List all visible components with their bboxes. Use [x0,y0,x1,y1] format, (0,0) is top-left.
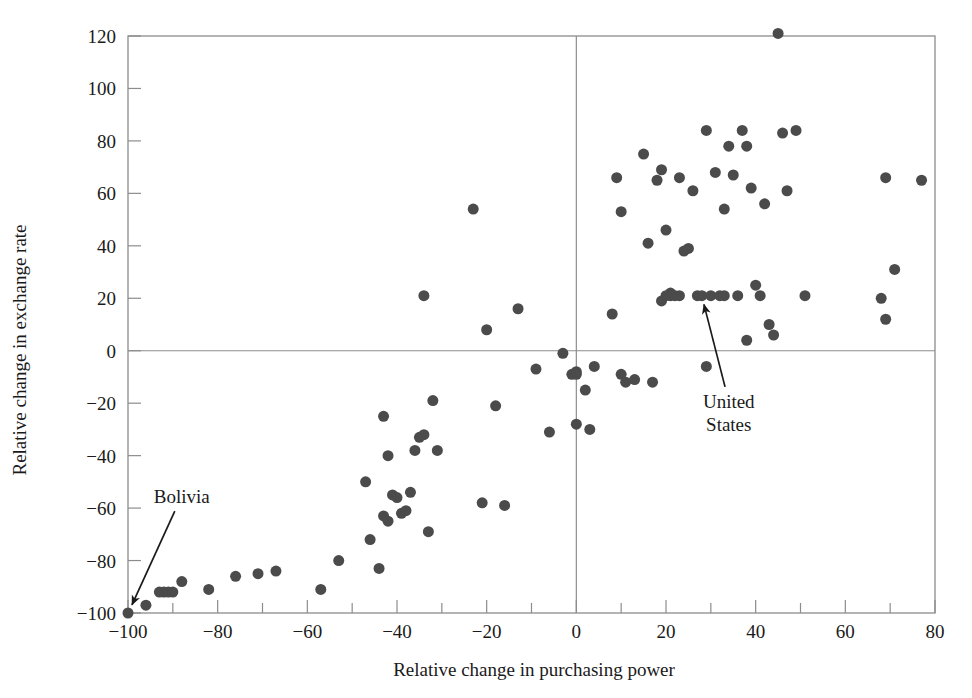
data-point [741,335,752,346]
data-point [616,206,627,217]
data-point [701,125,712,136]
x-tick-label: 0 [572,621,582,642]
data-point [755,290,766,301]
data-point [400,505,411,516]
data-point [418,290,429,301]
data-point [253,568,264,579]
data-point [571,419,582,430]
data-point [719,290,730,301]
data-point [791,125,802,136]
data-point [661,225,672,236]
data-point [773,28,784,39]
x-axis-title: Relative change in purchasing power [393,659,675,680]
y-tick-label: 0 [107,341,117,362]
data-point [674,172,685,183]
data-point [687,185,698,196]
data-point [427,395,438,406]
x-tick-label: −100 [108,621,147,642]
x-tick-label: 40 [746,621,765,642]
data-point [468,204,479,215]
annotation-label: Bolivia [154,486,211,507]
y-tick-label: 60 [97,183,116,204]
data-point [728,170,739,181]
data-point [880,172,891,183]
data-point [607,309,618,320]
y-tick-label: 20 [97,288,116,309]
data-point [333,555,344,566]
data-point [360,476,371,487]
data-point [764,319,775,330]
y-tick-label: −100 [77,603,116,624]
data-point [629,374,640,385]
data-point [176,576,187,587]
data-point [656,164,667,175]
y-tick-label: 120 [88,26,117,47]
y-tick-label: −80 [86,551,116,572]
y-tick-label: −60 [86,498,116,519]
chart-canvas: −100−80−60−40−20020406080 −100−80−60−40−… [0,0,972,698]
data-point [432,445,443,456]
data-point [737,125,748,136]
data-point [365,534,376,545]
chart-background [0,0,972,698]
data-point [481,324,492,335]
data-point [674,290,685,301]
data-point [392,492,403,503]
data-point [584,424,595,435]
data-point [490,400,501,411]
data-point [719,204,730,215]
data-point [315,584,326,595]
data-point [916,175,927,186]
data-point [643,238,654,249]
data-point [383,516,394,527]
data-point [383,450,394,461]
data-point [378,411,389,422]
data-point [710,167,721,178]
data-point [611,172,622,183]
annotation-label: States [706,414,751,435]
x-tick-label: 20 [657,621,676,642]
y-tick-label: 40 [97,236,116,257]
data-point [768,329,779,340]
data-point [530,364,541,375]
data-point [889,264,900,275]
data-point [499,500,510,511]
x-tick-label: −80 [203,621,233,642]
data-point [638,149,649,160]
data-point [750,280,761,291]
y-tick-label: 100 [88,78,117,99]
data-point [571,366,582,377]
y-tick-label: −40 [86,446,116,467]
y-tick-label: 80 [97,131,116,152]
y-axis-title: Relative change in exchange rate [9,224,30,475]
data-point [683,243,694,254]
data-point [405,487,416,498]
x-tick-label: 60 [836,621,855,642]
data-point [140,600,151,611]
data-point [647,377,658,388]
x-tick-label: −40 [382,621,412,642]
data-point [557,348,568,359]
data-point [732,290,743,301]
y-tick-label: −20 [86,393,116,414]
data-point [270,566,281,577]
data-point [799,290,810,301]
data-point [418,429,429,440]
data-point [513,303,524,314]
data-point [759,198,770,209]
x-tick-label: −20 [472,621,502,642]
data-point [544,427,555,438]
data-point [723,141,734,152]
data-point [741,141,752,152]
x-tick-label: 80 [926,621,945,642]
annotation-label: United [703,391,755,412]
data-point [652,175,663,186]
data-point [409,445,420,456]
data-point [230,571,241,582]
data-point [167,587,178,598]
data-point [777,128,788,139]
data-point [876,293,887,304]
data-point [477,497,488,508]
scatter-plot-figure: −100−80−60−40−20020406080 −100−80−60−40−… [0,0,972,698]
data-point [580,385,591,396]
